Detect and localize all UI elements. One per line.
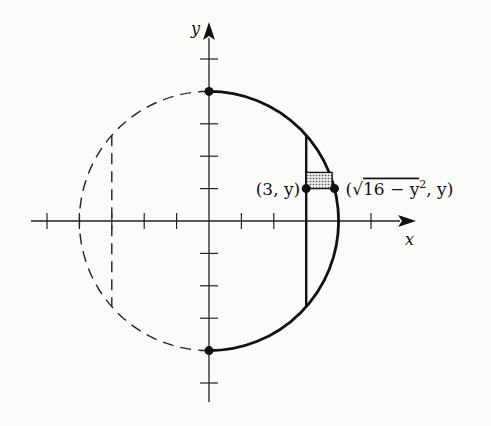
y-axis-label: y — [190, 19, 201, 38]
left-point-label: (3, y) — [256, 179, 301, 199]
shaded-strip — [306, 172, 332, 188]
exponent: 2 — [419, 178, 426, 191]
point-right-end — [330, 184, 339, 193]
diagram-svg: x y (3, y) (√16 − y2, y) — [0, 0, 491, 426]
point-top — [205, 87, 214, 96]
point-bottom — [205, 346, 214, 355]
diagram-canvas: x y (3, y) (√16 − y2, y) — [0, 0, 491, 426]
paren-close: , y) — [426, 179, 453, 199]
sqrt-symbol: √ — [352, 179, 363, 199]
labels: x y (3, y) (√16 − y2, y) — [190, 19, 453, 249]
paren-open: ( — [345, 179, 352, 199]
y-axis-arrow-icon — [203, 22, 215, 40]
x-axis-label: x — [405, 230, 414, 249]
point-left-end — [302, 184, 311, 193]
x-axis-arrow-icon — [398, 215, 416, 227]
axes — [31, 22, 416, 402]
radicand: 16 − y — [363, 179, 420, 199]
right-point-label: (√16 − y2, y) — [345, 178, 453, 199]
